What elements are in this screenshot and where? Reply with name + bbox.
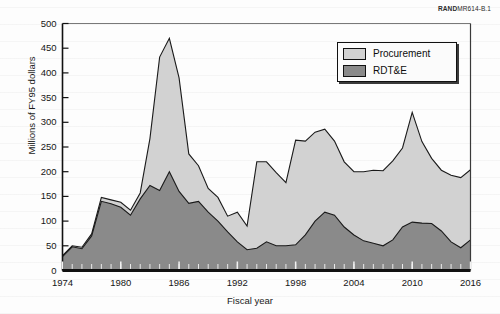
figure-id-label: RANDMR614-B.1	[438, 5, 491, 12]
y-tick-label: 150	[15, 190, 57, 201]
x-tick-label: 1974	[47, 277, 79, 288]
y-tick-label: 50	[15, 240, 57, 251]
x-tick-label: 2016	[455, 277, 487, 288]
y-tick-label: 450	[15, 42, 57, 53]
legend-item-procurement: Procurement	[343, 45, 456, 62]
y-tick-label: 300	[15, 116, 57, 127]
y-tick-label: 250	[15, 141, 57, 152]
x-tick-label: 1986	[163, 277, 195, 288]
legend-label-rdte: RDT&E	[373, 65, 407, 76]
y-tick-label: 100	[15, 215, 57, 226]
x-tick-label: 1998	[280, 277, 312, 288]
y-tick-label: 200	[15, 166, 57, 177]
x-tick-label: 1980	[105, 277, 137, 288]
chart-legend: Procurement RDT&E	[337, 42, 457, 82]
figure-id-suffix: MR614-B.1	[457, 5, 491, 12]
x-tick-label: 2004	[338, 277, 370, 288]
figure-page: RANDMR614-B.1 Millions of FY95 dollars F…	[0, 0, 500, 314]
y-tick-label: 400	[15, 67, 57, 78]
y-tick-label: 0	[15, 265, 57, 276]
y-tick-label: 350	[15, 92, 57, 103]
x-tick-label: 2010	[396, 277, 428, 288]
legend-swatch-procurement	[343, 48, 366, 60]
figure-id-prefix: RAND	[438, 5, 457, 12]
x-axis-title: Fiscal year	[0, 295, 500, 306]
legend-swatch-rdte	[343, 65, 366, 77]
legend-label-procurement: Procurement	[373, 48, 430, 59]
legend-item-rdte: RDT&E	[343, 62, 456, 79]
y-tick-label: 500	[15, 18, 57, 29]
x-tick-label: 1992	[221, 277, 253, 288]
